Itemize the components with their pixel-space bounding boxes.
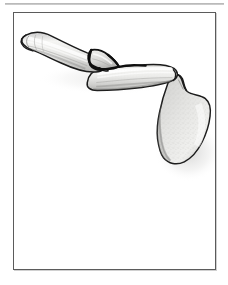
- clavicle-fracture-illustration: [14, 13, 215, 269]
- figure-frame: [13, 12, 216, 270]
- page-root: [0, 0, 228, 285]
- top-divider-rule: [5, 3, 224, 5]
